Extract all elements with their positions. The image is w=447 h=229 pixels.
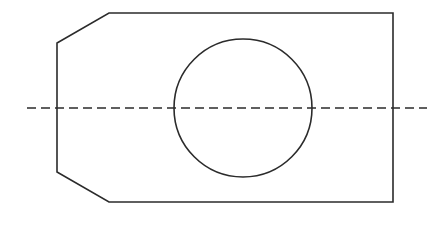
canvas-background [0,0,447,229]
drawing-svg-root [0,0,447,229]
technical-drawing-canvas [0,0,447,229]
